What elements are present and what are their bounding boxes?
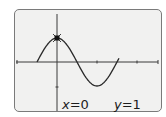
y-readout: y=1 — [114, 97, 141, 112]
x-value: 0 — [81, 97, 89, 112]
x-label: x — [62, 97, 70, 112]
y-equals: = — [122, 97, 133, 112]
y-value: 1 — [133, 97, 141, 112]
y-label: y — [114, 97, 122, 112]
x-equals: = — [70, 97, 81, 112]
x-readout: x=0 — [62, 97, 89, 112]
trace-point-marker — [55, 36, 60, 41]
